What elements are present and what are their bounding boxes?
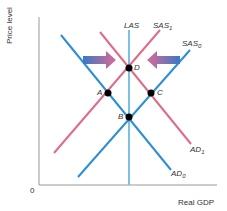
point-a xyxy=(105,90,112,97)
point-b-label: B xyxy=(118,113,123,121)
ad1-curve xyxy=(100,32,191,144)
point-c xyxy=(148,90,155,97)
point-b xyxy=(126,114,133,121)
sas1-label: SAS1 xyxy=(153,22,172,31)
ad0-label: AD0 xyxy=(171,170,185,179)
x-axis-label: Real GDP xyxy=(178,199,214,207)
ad1-label: AD1 xyxy=(190,146,204,155)
point-a-label: A xyxy=(97,89,102,97)
y-axis-label: Price level xyxy=(5,7,14,44)
origin-label: 0 xyxy=(30,187,34,195)
point-d-label: D xyxy=(134,64,140,72)
arrow-right-icon xyxy=(83,51,116,69)
point-c-label: C xyxy=(157,89,163,97)
as-ad-diagram xyxy=(0,0,227,211)
sas0-label: SAS0 xyxy=(182,40,201,49)
point-d xyxy=(126,65,133,72)
las-label: LAS xyxy=(124,22,139,30)
